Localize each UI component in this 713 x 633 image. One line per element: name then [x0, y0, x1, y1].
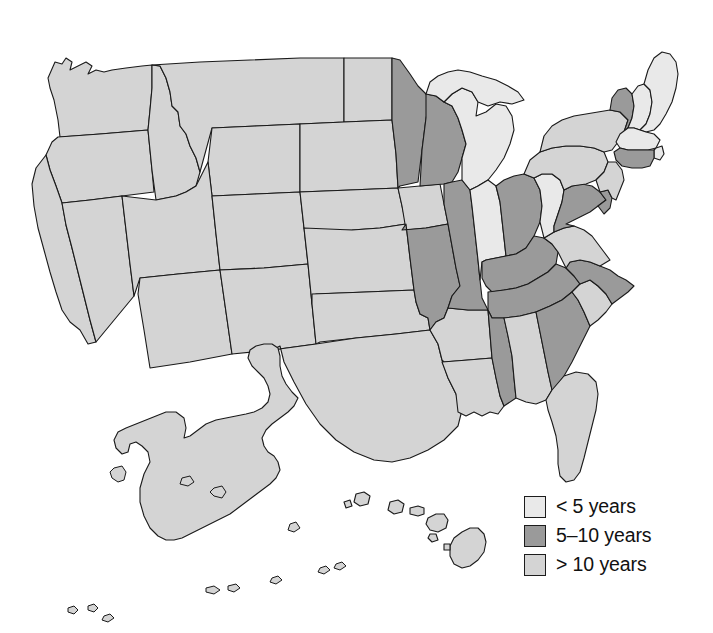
legend-item-lt5: < 5 years — [524, 492, 694, 521]
state-sd — [300, 120, 398, 192]
islet-5 — [228, 584, 240, 592]
legend-item-5to10: 5–10 years — [524, 521, 694, 550]
state-fl — [546, 372, 598, 482]
islet-1 — [88, 604, 98, 612]
islet-8 — [334, 562, 346, 570]
state-nm — [220, 264, 316, 354]
state-wy — [208, 124, 300, 196]
state-hi — [428, 534, 438, 542]
map-legend: < 5 years 5–10 years > 10 years — [524, 492, 694, 580]
islet-3 — [102, 614, 114, 622]
state-ny — [540, 110, 628, 152]
state-wa — [48, 58, 152, 137]
state-hi — [444, 544, 450, 550]
legend-item-gt10: > 10 years — [524, 550, 694, 579]
state-nd — [344, 58, 392, 122]
islet-9 — [110, 466, 126, 482]
state-tx — [272, 330, 462, 462]
state-co — [212, 192, 308, 270]
legend-swatch-lt5 — [524, 496, 546, 518]
state-hi — [388, 500, 404, 514]
state-ia — [398, 184, 448, 230]
islet-10 — [288, 522, 300, 532]
state-hi — [450, 528, 486, 568]
legend-label-lt5: < 5 years — [556, 497, 636, 517]
islet-7 — [318, 566, 330, 574]
states-layer — [32, 52, 678, 568]
state-hi — [426, 514, 448, 532]
legend-swatch-5to10 — [524, 525, 546, 547]
state-az — [138, 270, 232, 368]
legend-swatch-gt10 — [524, 554, 546, 576]
legend-label-5to10: 5–10 years — [556, 526, 651, 546]
state-ne — [300, 188, 406, 232]
state-hi — [344, 500, 352, 508]
islet-4 — [206, 586, 220, 594]
us-choropleth-map-figure: < 5 years 5–10 years > 10 years — [0, 0, 713, 633]
state-ct — [614, 148, 654, 168]
state-ak — [114, 344, 298, 540]
islet-2 — [68, 606, 78, 614]
state-ri — [654, 146, 664, 160]
islet-6 — [270, 576, 282, 584]
state-hi — [410, 506, 424, 516]
state-hi — [354, 492, 370, 506]
state-or — [46, 130, 154, 203]
legend-label-gt10: > 10 years — [556, 555, 647, 575]
